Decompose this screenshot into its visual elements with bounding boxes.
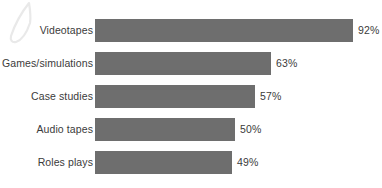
category-label-3: Audio tapes (36, 118, 93, 141)
plot-area: Videotapes 92% Games/simulations 63% Cas… (0, 0, 382, 188)
table-row: Case studies 57% (0, 85, 382, 108)
bar-0 (95, 19, 353, 42)
bar-4 (95, 151, 232, 174)
value-label-2: 57% (260, 85, 281, 108)
bar-chart: Videotapes 92% Games/simulations 63% Cas… (0, 0, 382, 188)
bar-1 (95, 52, 271, 75)
table-row: Audio tapes 50% (0, 118, 382, 141)
category-label-1: Games/simulations (2, 52, 93, 75)
category-label-0: Videotapes (40, 19, 93, 42)
category-label-4: Roles plays (38, 151, 93, 174)
category-label-2: Case studies (31, 85, 93, 108)
table-row: Games/simulations 63% (0, 52, 382, 75)
table-row: Videotapes 92% (0, 19, 382, 42)
value-label-3: 50% (240, 118, 261, 141)
bar-2 (95, 85, 255, 108)
bar-3 (95, 118, 235, 141)
value-label-0: 92% (358, 19, 379, 42)
value-label-4: 49% (237, 151, 258, 174)
table-row: Roles plays 49% (0, 151, 382, 174)
value-label-1: 63% (276, 52, 297, 75)
